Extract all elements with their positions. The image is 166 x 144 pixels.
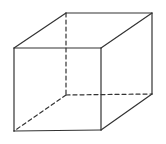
visible-edges (14, 13, 152, 131)
edge-front-top-left-to-back-top-left (14, 13, 66, 48)
cube-diagram (0, 0, 166, 144)
hidden-edge-back-bottom-left-to-front-bottom-left (14, 95, 66, 131)
edge-front-bottom-right-to-back-bottom-right (101, 94, 152, 130)
edge-front-bottom-right-to-front-bottom-left (14, 130, 101, 131)
hidden-edges (14, 13, 152, 131)
hidden-edge-back-bottom-left-to-back-bottom-right (66, 94, 152, 95)
edge-front-top-right-to-back-top-right (101, 13, 152, 48)
